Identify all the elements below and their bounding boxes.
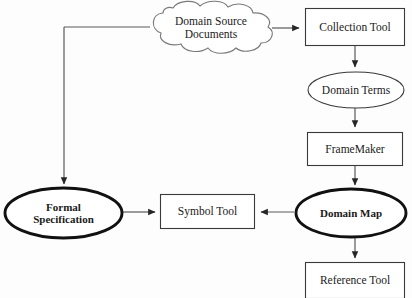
diagram-canvas — [0, 0, 412, 298]
process-flow-diagram: Domain Source Documents Collection Tool … — [0, 0, 412, 298]
box-shape-collection-tool — [306, 9, 405, 46]
box-shape-symbol-tool — [161, 195, 255, 229]
ellipse-shape-domain-map — [296, 189, 406, 237]
ellipse-shape-formal-specification — [5, 188, 122, 238]
cloud-shape-domain-source-documents — [153, 1, 272, 53]
ellipse-shape-domain-terms — [308, 72, 404, 108]
box-shape-reference-tool — [306, 263, 405, 298]
box-shape-framemaker — [308, 133, 403, 166]
